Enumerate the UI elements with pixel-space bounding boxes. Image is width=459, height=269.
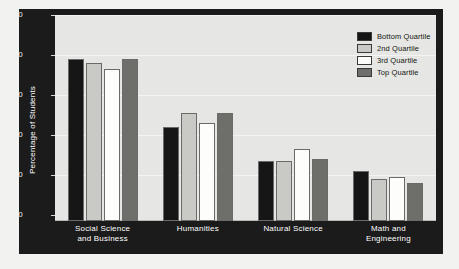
x-axis-category-line: Math and [341,224,436,234]
y-axis-tick-label: 0 [0,211,23,219]
x-axis-category-line: Natural Science [246,224,341,234]
bar[interactable] [371,179,387,221]
x-axis-category-line: Engineering [341,234,436,244]
y-axis-tick-label: 50 [0,11,23,19]
x-axis-category-label: Math andEngineering [341,224,436,244]
bar[interactable] [86,63,102,221]
legend-label: Top Quartile [377,68,419,77]
legend-item[interactable]: 3rd Quartile [357,55,449,65]
bar-group [150,15,245,221]
legend-swatch [357,32,372,41]
legend-item[interactable]: Top Quartile [357,67,449,77]
x-axis-category-line: Humanities [150,224,245,234]
legend-label: 3rd Quartile [377,56,417,65]
legend-item[interactable]: 2nd Quartile [357,43,449,53]
y-axis-title: Percentage of Students [28,86,37,174]
bar[interactable] [68,59,84,221]
bar-group [55,15,150,221]
x-axis-category-label: Humanities [150,224,245,234]
bar[interactable] [312,159,328,221]
bar-group [246,15,341,221]
bar[interactable] [407,183,423,221]
bar[interactable] [163,127,179,221]
bar[interactable] [353,171,369,221]
bar[interactable] [389,177,405,221]
bar[interactable] [181,113,197,221]
legend-item[interactable]: Bottom Quartile [357,31,449,41]
y-axis-tick-label: 10 [0,171,23,179]
legend-label: Bottom Quartile [377,32,431,41]
bar[interactable] [122,59,138,221]
legend-label: 2nd Quartile [377,44,419,53]
y-axis-tick-label: 30 [0,91,23,99]
chart-legend: Bottom Quartile2nd Quartile3rd QuartileT… [357,31,449,79]
x-axis-category-label: Social Scienceand Business [55,224,150,244]
legend-swatch [357,68,372,77]
bar[interactable] [199,123,215,221]
bar[interactable] [104,69,120,221]
bar[interactable] [294,149,310,221]
y-axis-tick-label: 20 [0,131,23,139]
x-axis-category-line: and Business [55,234,150,244]
bar[interactable] [258,161,274,221]
chart-page: Percentage of Students 01020304050 Socia… [0,0,459,269]
bar[interactable] [217,113,233,221]
x-axis-category-line: Social Science [55,224,150,234]
bar[interactable] [276,161,292,221]
legend-swatch [357,44,372,53]
x-axis-category-label: Natural Science [246,224,341,234]
x-axis-labels: Social Scienceand BusinessHumanitiesNatu… [55,221,436,254]
legend-swatch [357,56,372,65]
chart-frame: Percentage of Students 01020304050 Socia… [19,9,443,254]
y-axis-tick-label: 40 [0,51,23,59]
